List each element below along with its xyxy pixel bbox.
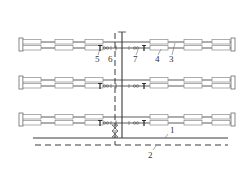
heater-row-1	[19, 38, 235, 51]
label-6: 6	[108, 54, 113, 64]
label-3: 3	[169, 54, 174, 64]
label-2: 2	[148, 150, 153, 160]
heater-row-3	[19, 113, 235, 126]
label-1: 1	[170, 125, 175, 135]
label-5: 5	[95, 54, 100, 64]
label-4: 4	[155, 54, 160, 64]
heater-row-2	[19, 76, 235, 89]
label-7: 7	[133, 54, 138, 64]
pipe-network-diagram: 5 6 7 4 3 1 2	[0, 0, 249, 172]
